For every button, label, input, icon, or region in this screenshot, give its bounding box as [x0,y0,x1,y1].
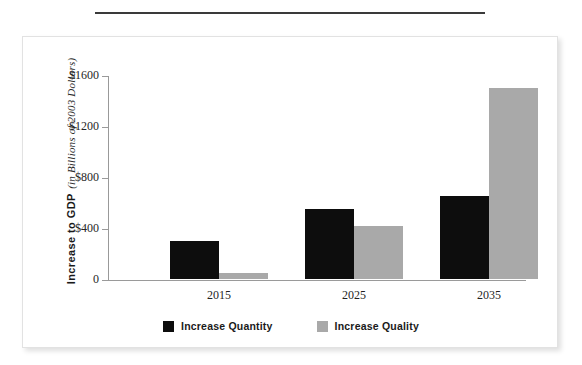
plot-area: 0$400$800$1200$1600 201520252035 [108,76,526,280]
y-axis-line [108,76,109,281]
y-axis-tick-mark [102,76,108,77]
top-divider-rule [95,12,485,14]
y-axis-tick-mark [102,127,108,128]
legend-swatch-quality [317,321,328,332]
y-axis-tick-label: $1600 [69,68,99,83]
legend-item[interactable]: Increase Quantity [163,320,273,332]
y-axis-tick-mark [102,229,108,230]
legend-swatch-quantity [163,321,174,332]
chart-legend: Increase QuantityIncrease Quality [23,320,559,332]
bar-2015-quality [219,273,268,279]
bar-2035-quality [489,88,538,279]
bar-2035-quantity [440,196,489,279]
y-axis-tick-label: $800 [75,170,99,185]
x-axis-label-2015: 2015 [150,288,288,303]
y-axis-tick-label: $1200 [69,119,99,134]
bar-2025-quantity [305,209,354,279]
legend-item[interactable]: Increase Quality [317,320,419,332]
x-axis-line [108,280,526,281]
bar-2015-quantity [170,241,219,279]
legend-label: Increase Quantity [181,320,273,332]
chart-panel: Increase to GDP (in Billions of 2003 Dol… [22,36,558,348]
y-axis-title-main: Increase to GDP [65,193,77,284]
y-axis-tick-mark [102,178,108,179]
legend-label: Increase Quality [335,320,419,332]
x-axis-label-2035: 2035 [420,288,558,303]
bar-2025-quality [354,226,403,279]
y-axis-tick-mark [102,280,108,281]
x-axis-label-2025: 2025 [285,288,423,303]
y-axis-tick-label: 0 [93,272,99,287]
y-axis-tick-label: $400 [75,221,99,236]
